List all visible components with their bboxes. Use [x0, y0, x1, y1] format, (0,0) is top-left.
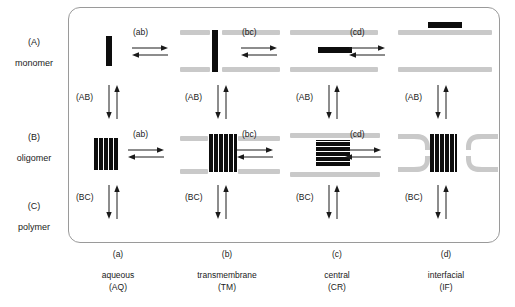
transition-label-ab-oligomer: (ab): [133, 129, 148, 139]
transition-label-BC-col-a: (BC): [76, 192, 93, 202]
transition-arrows-cd-oligomer: [345, 146, 381, 164]
column-key-a: (a): [63, 248, 173, 260]
column-abbr-b: (TM): [172, 281, 282, 293]
transition-label-cd-monomer: (cd): [350, 27, 365, 37]
transition-arrows-AB-col-a: [105, 85, 123, 119]
column-name-b: transmembrane: [172, 269, 282, 281]
column-abbr-c: (CR): [282, 281, 392, 293]
transition-arrows-BC-col-a: [105, 185, 123, 219]
double-arrow-vertical-icon: [325, 185, 343, 219]
column-caption-aqueous: (a) aqueous (AQ): [63, 248, 173, 293]
row-label-monomer: (A) monomer: [0, 36, 68, 69]
column-name-c: central: [282, 269, 392, 281]
membrane-upper-leaflet: [290, 133, 380, 138]
row-key-b: (B): [0, 131, 68, 143]
transition-arrows-ab-oligomer: [128, 146, 164, 164]
column-abbr-d: (IF): [391, 281, 501, 293]
membrane-upper-leaflet: [398, 30, 492, 35]
row-name-monomer: monomer: [0, 57, 68, 69]
transition-label-BC-col-b: (BC): [185, 192, 202, 202]
row-key-a: (A): [0, 36, 68, 48]
transition-label-cd-oligomer: (cd): [350, 129, 365, 139]
transition-arrows-AB-col-c: [325, 85, 343, 119]
membrane-lower-leaflet: [290, 67, 378, 72]
transition-arrows-BC-col-d: [434, 185, 452, 219]
transition-label-AB-col-a: (AB): [76, 92, 93, 102]
double-arrow-vertical-icon: [214, 185, 232, 219]
double-arrow-vertical-icon: [214, 85, 232, 119]
transition-arrows-AB-col-b: [214, 85, 232, 119]
double-arrow-horizontal-icon: [132, 44, 168, 62]
column-name-a: aqueous: [63, 269, 173, 281]
oligomer-protein-tm: [209, 134, 237, 172]
transition-label-BC-col-c: (BC): [296, 192, 313, 202]
double-arrow-horizontal-icon: [128, 146, 164, 164]
double-arrow-vertical-icon: [105, 85, 123, 119]
oligomer-protein-if: [430, 134, 457, 172]
transition-arrows-BC-col-b: [214, 185, 232, 219]
row-label-polymer: (C) polymer: [0, 200, 68, 233]
column-abbr-a: (AQ): [63, 281, 173, 293]
transition-arrows-BC-col-c: [325, 185, 343, 219]
membrane-upper-leaflet-left: [180, 30, 210, 35]
transition-label-bc-oligomer: (bc): [242, 129, 257, 139]
membrane-lower-leaflet: [290, 172, 380, 177]
double-arrow-horizontal-icon: [349, 44, 385, 62]
row-name-oligomer: oligomer: [0, 152, 68, 164]
transition-arrows-bc-oligomer: [237, 146, 273, 164]
membrane-lower-leaflet-left: [180, 169, 208, 174]
membrane-lower-leaflet-right: [222, 67, 280, 72]
column-caption-interfacial: (d) interfacial (IF): [391, 248, 501, 293]
row-name-polymer: polymer: [0, 221, 68, 233]
double-arrow-horizontal-icon: [237, 146, 273, 164]
state-oligomer-interfacial: [398, 126, 498, 184]
monomer-protein-cr: [318, 47, 352, 53]
transition-arrows-cd-monomer: [349, 44, 385, 62]
transition-arrows-ab-monomer: [132, 44, 168, 62]
membrane-lower-leaflet-left: [180, 67, 210, 72]
transition-label-AB-col-b: (AB): [185, 92, 202, 102]
transition-label-bc-monomer: (bc): [242, 27, 257, 37]
transition-arrows-AB-col-d: [434, 85, 452, 119]
column-key-c: (c): [282, 248, 392, 260]
double-arrow-horizontal-icon: [241, 44, 277, 62]
monomer-protein-aq: [106, 36, 112, 66]
transition-label-ab-monomer: (ab): [133, 27, 148, 37]
column-key-d: (d): [391, 248, 501, 260]
transition-label-BC-col-d: (BC): [405, 192, 422, 202]
double-arrow-vertical-icon: [434, 85, 452, 119]
column-key-b: (b): [172, 248, 282, 260]
figure-root: (A) monomer (B) oligomer (C) polymer (ab…: [0, 0, 515, 307]
double-arrow-vertical-icon: [434, 185, 452, 219]
state-monomer-interfacial: [398, 22, 498, 80]
monomer-protein-tm: [212, 30, 218, 72]
transition-arrows-bc-monomer: [241, 44, 277, 62]
column-caption-transmembrane: (b) transmembrane (TM): [172, 248, 282, 293]
column-name-d: interfacial: [391, 269, 501, 281]
double-arrow-vertical-icon: [325, 85, 343, 119]
row-label-oligomer: (B) oligomer: [0, 131, 68, 164]
monomer-protein-if: [428, 22, 462, 28]
double-arrow-vertical-icon: [105, 185, 123, 219]
membrane-lower-leaflet-right: [238, 169, 280, 174]
row-key-c: (C): [0, 200, 68, 212]
oligomer-protein-aq: [94, 138, 118, 170]
double-arrow-horizontal-icon: [345, 146, 381, 164]
membrane-lower-leaflet: [398, 67, 492, 72]
column-caption-central: (c) central (CR): [282, 248, 392, 293]
transition-label-AB-col-c: (AB): [296, 92, 313, 102]
transition-label-AB-col-d: (AB): [405, 92, 422, 102]
membrane-upper-leaflet-left: [180, 136, 208, 141]
